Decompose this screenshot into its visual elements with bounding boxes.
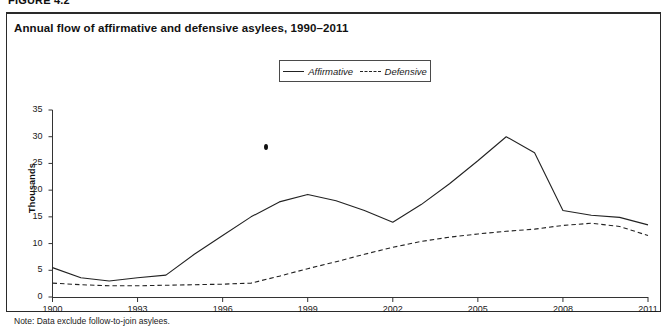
chart-legend: Affirmative Defensive: [279, 60, 431, 82]
y-axis-tick-label: 20: [19, 184, 43, 194]
legend-label-affirmative: Affirmative: [308, 66, 353, 77]
x-axis-tick-label: 2005: [458, 304, 498, 314]
figure-title: Annual flow of affirmative and defensive…: [14, 22, 348, 34]
figure-number: FIGURE 4.2: [8, 0, 70, 6]
x-axis-tick-label: 1996: [203, 304, 243, 314]
solid-line-swatch-icon: [283, 71, 304, 72]
scan-artifact-speck: [264, 144, 268, 150]
x-axis-tick-label: 1993: [118, 304, 158, 314]
x-axis-tick-label: 1900: [33, 304, 73, 314]
y-axis-tick-label: 0: [19, 291, 43, 301]
y-axis-tick-label: 10: [19, 238, 43, 248]
legend-entry-defensive: Defensive: [360, 66, 427, 77]
y-axis-tick-label: 30: [19, 131, 43, 141]
y-axis-tick-label: 5: [19, 264, 43, 274]
figure-container: [6, 12, 661, 312]
x-axis-tick-label: 1999: [288, 304, 328, 314]
figure-note: Note: Data exclude follow-to-join asylee…: [14, 316, 170, 326]
y-axis-tick-label: 25: [19, 157, 43, 167]
dashed-line-swatch-icon: [360, 71, 381, 72]
y-axis-tick-label: 15: [19, 211, 43, 221]
x-axis-tick-label: 2002: [373, 304, 413, 314]
legend-label-defensive: Defensive: [385, 66, 427, 77]
x-axis-tick-label: 2008: [543, 304, 583, 314]
legend-entry-affirmative: Affirmative: [283, 66, 353, 77]
x-axis-tick-label: 2011: [628, 304, 666, 314]
y-axis-tick-label: 35: [19, 104, 43, 114]
